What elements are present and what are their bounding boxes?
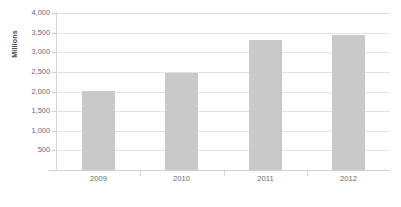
x-axis-tick-label: 2010: [140, 173, 223, 185]
y-axis-tick-label: 3,500: [22, 29, 50, 37]
y-axis-tick-label: 1,000: [22, 127, 50, 135]
bar-series: [57, 13, 390, 170]
y-axis-title: Millions: [9, 18, 21, 70]
y-axis-tick-label: 4,000: [22, 9, 50, 17]
x-axis-category-separator: [307, 171, 308, 176]
x-axis-category-separator: [224, 171, 225, 176]
y-axis-tick-label: 500: [22, 146, 50, 154]
bar-chart: Millions -5001,0001,5002,0002,5003,0003,…: [0, 0, 401, 207]
x-axis-category-separator: [140, 171, 141, 176]
x-axis-tick-label: 2012: [307, 173, 390, 185]
chart-caption: [6, 193, 396, 206]
x-axis-tick-label: 2011: [224, 173, 307, 185]
y-axis-tick-label: 3,000: [22, 48, 50, 56]
y-axis-tick-label: 2,500: [22, 68, 50, 76]
y-axis-tick-label: 2,000: [22, 88, 50, 96]
x-axis-tick-label: 2009: [57, 173, 140, 185]
y-axis-tick-label: 1,500: [22, 107, 50, 115]
y-axis-tick-labels: -5001,0001,5002,0002,5003,0003,5004,000: [22, 0, 50, 207]
bar: [249, 40, 282, 170]
bar: [332, 35, 365, 170]
bar: [165, 73, 198, 170]
y-axis-tick-label: -: [22, 166, 50, 174]
plot-area: [57, 13, 390, 170]
bar: [82, 91, 115, 170]
